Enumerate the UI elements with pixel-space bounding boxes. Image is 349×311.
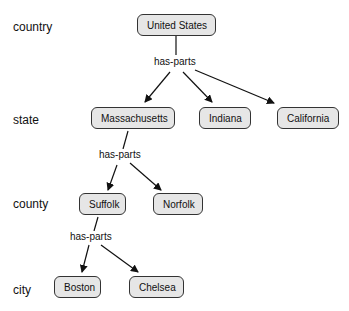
level-label-city: city: [13, 283, 31, 297]
relation-label-suffolk-has-parts: has-parts: [69, 231, 113, 242]
node-suffolk[interactable]: Suffolk: [79, 193, 126, 215]
edges-layer: [0, 0, 349, 311]
node-california[interactable]: California: [277, 107, 339, 129]
level-label-country: country: [13, 20, 52, 34]
node-massachusetts[interactable]: Massachusetts: [91, 107, 175, 129]
relation-label-ma-has-parts: has-parts: [98, 149, 142, 160]
level-label-state: state: [13, 113, 39, 127]
node-boston[interactable]: Boston: [54, 276, 101, 298]
node-indiana[interactable]: Indiana: [199, 107, 251, 129]
node-norfolk[interactable]: Norfolk: [153, 193, 203, 215]
level-label-county: county: [13, 197, 48, 211]
relation-label-us-has-parts: has-parts: [153, 56, 197, 67]
node-united-states[interactable]: United States: [137, 14, 216, 36]
node-chelsea[interactable]: Chelsea: [129, 276, 184, 298]
